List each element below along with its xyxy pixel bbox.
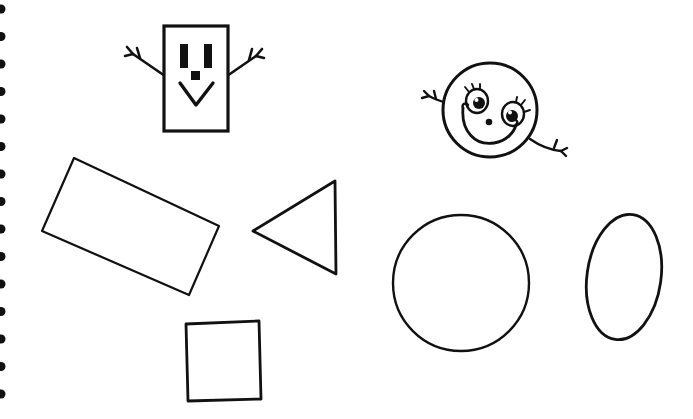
rectangle-character-right-eye [204,44,212,68]
circle-shape [393,215,529,351]
drawing-canvas [0,0,693,419]
spiral-binding [0,5,6,399]
worksheet-page [0,0,693,419]
circle-character-nose [486,119,493,126]
square-shape [186,321,261,401]
rectangle-character-left-eye [180,44,188,68]
rectangle-character-nose [191,71,200,80]
